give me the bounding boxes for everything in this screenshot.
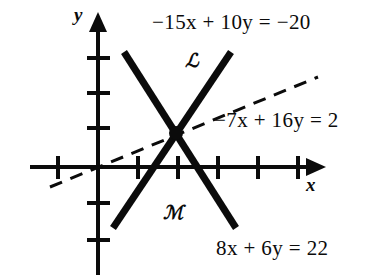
script-m-label: ℳ: [163, 201, 183, 224]
equation-label-dashed-line: −7x + 16y = 2: [214, 108, 339, 133]
graph-canvas: [0, 0, 391, 277]
y-axis-label: y: [74, 4, 82, 26]
x-axis-label: x: [306, 174, 316, 196]
intersection-point-dot: [169, 126, 183, 140]
coordinate-plane-figure: −15x + 10y = −20 −7x + 16y = 2 8x + 6y =…: [0, 0, 391, 277]
y-axis-arrowhead: [89, 12, 107, 32]
y-axis: [87, 12, 110, 275]
script-l-label: ℒ: [185, 49, 199, 72]
equation-label-line-m: 8x + 6y = 22: [216, 236, 329, 261]
equation-label-line-l: −15x + 10y = −20: [152, 10, 311, 35]
